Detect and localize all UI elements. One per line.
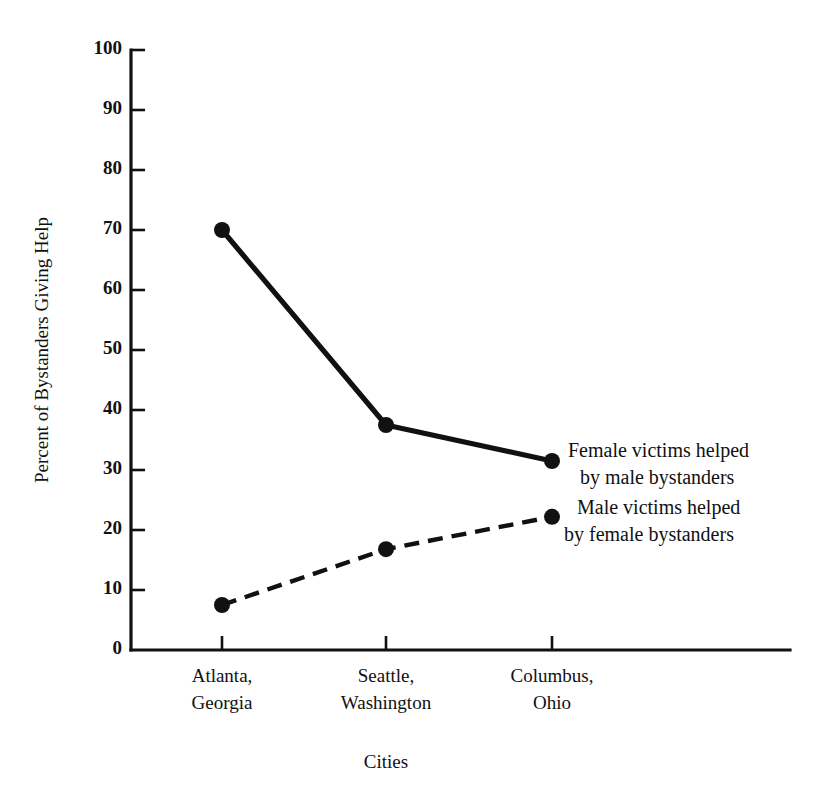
x-label-columbus-line2: Ohio xyxy=(533,692,571,713)
y-tick-label-100: 100 xyxy=(94,37,123,58)
data-point-male-seattle xyxy=(378,541,394,557)
y-tick-label-60: 60 xyxy=(103,277,122,298)
legend-entry-female-victims: Female victims helped by male bystanders xyxy=(568,439,749,489)
y-tick-labels: 100 90 80 70 60 50 40 30 20 10 0 xyxy=(94,37,123,658)
y-tick-label-70: 70 xyxy=(103,217,122,238)
series-female-victims xyxy=(214,222,560,469)
y-tick-label-50: 50 xyxy=(103,337,122,358)
legend-entry-male-victims: Male victims helped by female bystanders xyxy=(564,496,740,546)
x-label-atlanta-line1: Atlanta, xyxy=(192,665,253,686)
x-label-columbus-line1: Columbus, xyxy=(511,665,594,686)
y-tick-label-30: 30 xyxy=(103,457,122,478)
data-point-female-columbus xyxy=(544,453,560,469)
line-chart: 100 90 80 70 60 50 40 30 20 10 0 Percent… xyxy=(0,0,835,803)
y-tick-label-90: 90 xyxy=(103,97,122,118)
data-point-male-atlanta xyxy=(214,597,230,613)
y-tick-label-80: 80 xyxy=(103,157,122,178)
legend-label-female-line1: Female victims helped xyxy=(568,439,749,462)
chart-container: 100 90 80 70 60 50 40 30 20 10 0 Percent… xyxy=(0,0,835,803)
axis-group xyxy=(131,50,790,650)
y-tick-label-10: 10 xyxy=(103,577,122,598)
x-category-labels: Atlanta, Georgia Seattle, Washington Col… xyxy=(192,665,594,713)
series-male-victims xyxy=(214,509,560,613)
data-point-female-atlanta xyxy=(214,222,230,238)
legend-label-male-line2: by female bystanders xyxy=(564,523,734,546)
y-axis-title: Percent of Bystanders Giving Help xyxy=(31,217,52,483)
legend-label-male-line1: Male victims helped xyxy=(577,496,740,519)
legend-label-female-line2: by male bystanders xyxy=(580,466,735,489)
legend: Female victims helped by male bystanders… xyxy=(564,439,749,546)
data-point-male-columbus xyxy=(544,509,560,525)
x-axis-title: Cities xyxy=(364,751,408,772)
x-label-seattle-line1: Seattle, xyxy=(358,665,414,686)
x-label-seattle-line2: Washington xyxy=(341,692,432,713)
x-tick-marks xyxy=(222,636,552,650)
series-male-victims-line xyxy=(222,517,552,605)
y-tick-label-20: 20 xyxy=(103,517,122,538)
y-tick-label-40: 40 xyxy=(103,397,122,418)
y-tick-marks xyxy=(131,50,145,590)
data-point-female-seattle xyxy=(378,417,394,433)
x-label-atlanta-line2: Georgia xyxy=(192,692,253,713)
y-tick-label-0: 0 xyxy=(113,637,123,658)
